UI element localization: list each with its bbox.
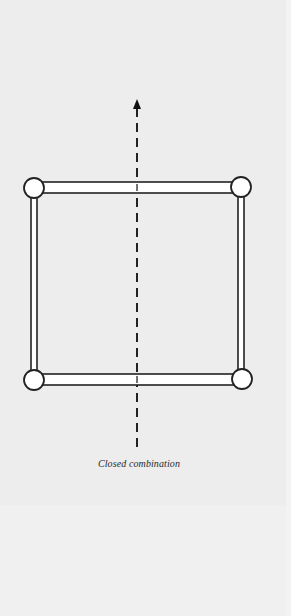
joint-bottom-left <box>24 370 44 390</box>
closed-combination-diagram <box>0 0 291 616</box>
dashed-axis <box>133 99 141 452</box>
left-bar <box>31 188 37 380</box>
joint-bottom-right <box>232 369 252 389</box>
figure-caption: Closed combination <box>0 458 278 469</box>
bottom-bar <box>34 374 242 385</box>
right-bar <box>238 187 244 379</box>
arrow-up-icon <box>133 99 141 109</box>
joint-top-right <box>231 177 251 197</box>
joint-top-left <box>24 178 44 198</box>
